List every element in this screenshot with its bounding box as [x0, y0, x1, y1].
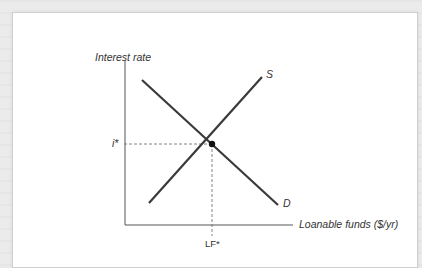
- lf-star-label: LF*: [205, 238, 220, 249]
- supply-label: S: [266, 68, 273, 80]
- y-axis-label: Interest rate: [95, 51, 151, 63]
- demand-label: D: [283, 197, 291, 209]
- supply-curve: [149, 77, 262, 203]
- x-axis-label: Loanable funds ($/yr): [299, 218, 398, 230]
- i-star-label: i*: [112, 137, 118, 149]
- equilibrium-point: [209, 141, 215, 147]
